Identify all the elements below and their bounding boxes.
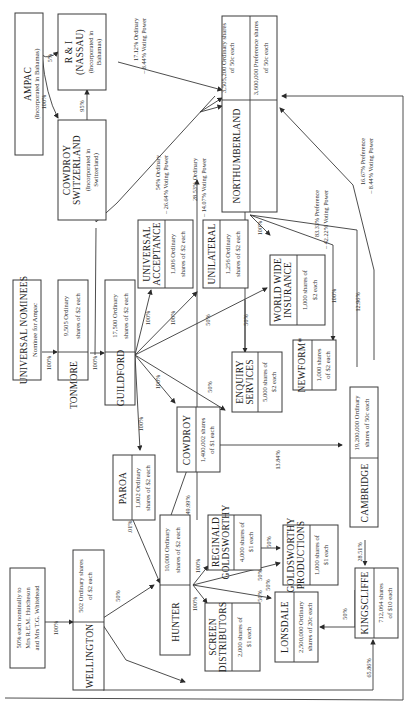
entity-owners-note: 50% each nominally to Mrs R.E.M. Hutches… xyxy=(10,568,45,668)
svg-text:(Incorporated in: (Incorporated in xyxy=(87,30,95,73)
svg-text:$2 each: $2 each xyxy=(270,371,277,392)
entity-enquiry-services: ENQUIRY SERVICES 5,000 shares of $2 each xyxy=(232,352,282,412)
svg-text:WELLINGTON: WELLINGTON xyxy=(85,624,95,689)
svg-text:19,200,000 Ordinary: 19,200,000 Ordinary xyxy=(353,395,360,451)
svg-text:PRODUCTIONS: PRODUCTIONS xyxy=(296,521,306,590)
svg-text:12.96%: 12.96% xyxy=(354,292,361,311)
svg-text:712,064 shares: 712,064 shares xyxy=(377,583,384,623)
svg-text:50%: 50% xyxy=(204,314,211,325)
svg-text:– 42.22% Voting Power: – 42.22% Voting Power xyxy=(322,190,329,250)
entity-tonmore: TONMORE 9,505 Ordinary shares of $2 each xyxy=(58,280,88,409)
svg-text:4,000 shares of: 4,000 shares of xyxy=(238,521,245,562)
svg-text:(Incorporated in: (Incorporated in xyxy=(84,148,92,191)
svg-text:1,256 Ordinary: 1,256 Ordinary xyxy=(224,233,231,274)
svg-text:$1 each: $1 each xyxy=(247,531,254,552)
entity-cambridge: CAMBRIDGE 19,200,000 Ordinary shares of … xyxy=(350,387,378,527)
svg-text:13.84%: 13.84% xyxy=(274,450,281,469)
entity-wellington: WELLINGTON 502 Ordinary shares of $2 eac… xyxy=(73,550,104,690)
svg-text:1,000 shares of: 1,000 shares of xyxy=(313,534,320,575)
entity-kingscliffe: KINGSCLIFFE 712,064 shares of $10 each xyxy=(355,568,398,638)
svg-text:shares of $2 each: shares of $2 each xyxy=(174,527,181,573)
svg-text:– 26.64% Voting Power: – 26.64% Voting Power xyxy=(162,155,169,215)
entity-ri-nassau: R & I (NASSAU) (Incorporated in Bahamas) xyxy=(58,14,106,90)
entity-lonsdale: LONSDALE 2,500,000 Ordinary shares of 20… xyxy=(275,592,318,662)
svg-text:shares of $2 each: shares of $2 each xyxy=(74,293,81,339)
svg-text:ACCEPTANCE: ACCEPTANCE xyxy=(152,222,162,286)
svg-text:GOLDSWORTHY: GOLDSWORTHY xyxy=(286,518,296,593)
ownership-structure-diagram: AMPAC (Incorporated in Bahamas) R & I (N… xyxy=(0,0,407,705)
entity-northumberland: NORTHUMBERLAND 3,505,200 Ordinary shares… xyxy=(220,16,277,212)
svg-text:9,505 Ordinary: 9,505 Ordinary xyxy=(62,295,69,336)
svg-text:83.33% Preference: 83.33% Preference xyxy=(313,190,320,237)
svg-text:Bahamas): Bahamas) xyxy=(95,39,103,65)
svg-text:100%: 100% xyxy=(144,311,151,325)
svg-text:R & I: R & I xyxy=(64,41,74,64)
svg-text:WORLD WIDE: WORLD WIDE xyxy=(273,258,283,322)
svg-text:shares of $2 each: shares of $2 each xyxy=(144,465,151,511)
svg-text:50%: 50% xyxy=(114,590,121,601)
entity-unilateral: UNILATERAL 1,256 Ordinary shares of $2 e… xyxy=(203,220,248,288)
svg-text:– 14.07% Voting Power: – 14.07% Voting Power xyxy=(200,158,207,218)
svg-text:GOLDSWORTHY: GOLDSWORTHY xyxy=(221,505,231,580)
svg-text:– 8.44% Voting Power: – 8.44% Voting Power xyxy=(140,18,147,75)
svg-text:50%: 50% xyxy=(341,608,348,619)
svg-text:49.99%: 49.99% xyxy=(184,495,191,514)
entity-guildford: GUILDFORD 17,500 Ordinary shares of $2 e… xyxy=(105,280,135,406)
entity-world-wide-insurance: WORLD WIDE INSURANCE 1,000 shares of $2 … xyxy=(270,255,325,325)
entity-cowdroy-switzerland: COWDROY SWITZERLAND (Incorporated in Swi… xyxy=(58,120,106,220)
svg-text:Switzerland): Switzerland) xyxy=(92,153,100,187)
svg-text:5,000 shares of: 5,000 shares of xyxy=(261,361,268,402)
svg-text:17.12% Ordinary: 17.12% Ordinary xyxy=(132,17,139,61)
svg-text:28.53% Ordinary: 28.53% Ordinary xyxy=(191,157,198,201)
entity-newform: NEWFORM* 1,000 shares of $2 each xyxy=(293,338,336,393)
svg-text:of $1 each: of $1 each xyxy=(208,426,215,454)
svg-text:of $10 each: of $10 each xyxy=(386,587,393,618)
svg-text:DISTRIBUTORS: DISTRIBUTORS xyxy=(218,602,228,672)
svg-text:28.51%: 28.51% xyxy=(356,542,363,561)
svg-text:Nominee for Ampac: Nominee for Ampac xyxy=(31,303,38,357)
svg-text:NORTHUMBERLAND: NORTHUMBERLAND xyxy=(232,108,242,203)
entity-screen-distributors: SCREEN DISTRIBUTORS 2,000 shares of $1 e… xyxy=(205,602,260,672)
svg-text:CAMBRIDGE: CAMBRIDGE xyxy=(360,464,370,523)
svg-text:INSURANCE: INSURANCE xyxy=(283,262,293,318)
svg-text:of $2 each: of $2 each xyxy=(86,572,93,600)
svg-text:5%: 5% xyxy=(46,54,53,62)
entity-ampac: AMPAC (Incorporated in Bahamas) xyxy=(15,13,43,155)
svg-text:2,500,000 Ordinary: 2,500,000 Ordinary xyxy=(297,600,304,653)
entity-cowdroy: COWDROY 1,400,002 shares of $1 each xyxy=(177,407,220,472)
svg-text:shares of 20c each: shares of 20c each xyxy=(306,602,313,651)
svg-text:50%: 50% xyxy=(265,536,272,547)
svg-text:SWITZERLAND: SWITZERLAND xyxy=(72,135,82,205)
entity-reginald-goldsworthy: REGINALD GOLDSWORTHY 4,000 shares of $1 … xyxy=(208,505,261,580)
svg-text:PAROA: PAROA xyxy=(118,472,128,504)
svg-text:shares of $2 each: shares of $2 each xyxy=(234,231,241,277)
entity-hunter: HUNTER 10,000 Ordinary shares of $2 each xyxy=(160,515,190,655)
svg-text:100%: 100% xyxy=(91,356,98,370)
svg-text:COWDROY: COWDROY xyxy=(62,145,72,195)
svg-text:50%: 50% xyxy=(206,381,213,392)
svg-text:50%: 50% xyxy=(256,590,263,601)
svg-text:UNIVERSAL: UNIVERSAL xyxy=(142,226,152,282)
entity-paroa: PAROA 1,002 Ordinary shares of $2 each xyxy=(113,455,155,520)
svg-text:Mrs R.E.M. Hutcheson: Mrs R.E.M. Hutcheson xyxy=(24,587,31,649)
svg-text:$2 each: $2 each xyxy=(311,279,318,300)
svg-text:2,000 shares of: 2,000 shares of xyxy=(236,616,243,657)
svg-text:UNILATERAL: UNILATERAL xyxy=(207,223,217,284)
svg-text:100%: 100% xyxy=(40,95,47,109)
svg-text:100%: 100% xyxy=(191,597,198,611)
svg-text:50%: 50% xyxy=(264,579,271,590)
svg-text:.01%: .01% xyxy=(126,521,133,534)
svg-text:shares of $2 each: shares of $2 each xyxy=(122,293,129,339)
entity-universal-acceptance: UNIVERSAL ACCEPTANCE 1,006 Ordinary shar… xyxy=(138,220,193,288)
svg-text:100%: 100% xyxy=(194,559,201,573)
svg-text:$1 each: $1 each xyxy=(245,626,252,647)
svg-text:95%: 95% xyxy=(78,100,85,111)
svg-text:17,500 Ordinary: 17,500 Ordinary xyxy=(111,294,118,338)
svg-text:502 Ordinary shares: 502 Ordinary shares xyxy=(77,559,84,613)
svg-text:SCREEN: SCREEN xyxy=(208,618,218,656)
svg-text:COWDROY: COWDROY xyxy=(182,415,192,465)
svg-text:50% each nominally to: 50% each nominally to xyxy=(15,587,22,649)
svg-text:and Mrs T.G. Whitehead: and Mrs T.G. Whitehead xyxy=(33,585,40,651)
svg-text:$1 each: $1 each xyxy=(322,544,329,565)
svg-text:100%: 100% xyxy=(52,621,59,635)
